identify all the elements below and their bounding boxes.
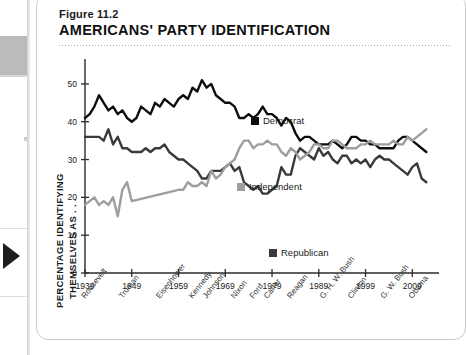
legend-item-republican: Republican [269,247,329,258]
legend-item-independent: Independent [237,181,302,192]
sidebar-rail [27,0,30,355]
figure-title: AMERICANS' PARTY IDENTIFICATION [59,22,330,38]
sidebar-divider-bottom [0,296,27,297]
figure-card: Figure 11.2 AMERICANS' PARTY IDENTIFICAT… [36,0,466,340]
title-divider [59,45,451,46]
sidebar-gray-block [0,36,27,75]
page-sidebar: e · [0,0,30,355]
y-tick-label: 50 [68,79,78,89]
next-arrow-icon[interactable] [3,243,20,269]
legend-item-democrat: Democrat [251,115,304,126]
legend-label-republican: Republican [281,247,329,258]
legend-swatch-independent [237,183,245,191]
line-chart-svg: 0102030405019391949195919691979198919992… [37,47,465,339]
president-label: Reagan [285,273,309,301]
sidebar-divider-top [0,228,27,229]
y-axis-title-line1: PERCENTAGE IDENTIFYING [54,173,65,308]
legend-label-democrat: Democrat [263,115,304,126]
legend-swatch-democrat [251,117,259,125]
figure-label: Figure 11.2 [59,8,119,20]
y-axis-title: PERCENTAGE IDENTIFYING THEMSELVES AS . .… [43,103,69,313]
legend-swatch-republican [269,249,277,257]
legend-label-independent: Independent [249,181,302,192]
series-line-independent [85,129,426,216]
chart-plot-area: 0102030405019391949195919691979198919992… [37,47,465,339]
y-axis-title-line2: THEMSELVES AS . . . [67,198,78,299]
